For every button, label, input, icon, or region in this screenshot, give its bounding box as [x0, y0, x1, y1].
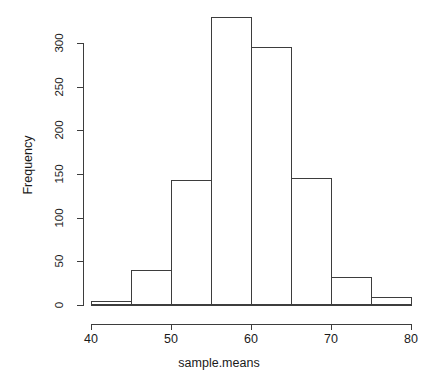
y-axis-tick-label: 50 — [53, 255, 65, 268]
y-axis-tick-label: 150 — [53, 164, 65, 183]
plot-area — [91, 14, 411, 305]
x-axis-tick-label: 50 — [151, 332, 191, 346]
histogram-bar — [211, 17, 252, 305]
bar-baseline — [91, 305, 412, 306]
y-axis-tick-label: 300 — [53, 33, 65, 52]
x-axis-tick-label: 70 — [311, 332, 351, 346]
y-axis-tick-label: 250 — [53, 77, 65, 96]
x-axis-tick-label: 40 — [71, 332, 111, 346]
y-axis-tick — [77, 174, 83, 175]
y-axis-tick — [77, 305, 83, 306]
x-axis-tick — [411, 324, 412, 330]
x-axis-tick-label: 80 — [391, 332, 431, 346]
histogram-bar — [371, 297, 412, 305]
y-axis-tick — [77, 218, 83, 219]
y-axis-tick — [77, 87, 83, 88]
y-axis-title-container: Frequency — [18, 0, 38, 330]
x-axis-tick — [171, 324, 172, 330]
y-axis-tick-label: 0 — [53, 302, 65, 308]
x-axis-tick — [251, 324, 252, 330]
y-axis-tick-label: 100 — [53, 208, 65, 227]
y-axis-tick — [77, 130, 83, 131]
y-axis-line — [83, 43, 84, 306]
histogram-plot: Frequency 050100150200250300 4050607080 … — [0, 0, 438, 391]
histogram-bar — [131, 270, 172, 305]
y-axis-tick — [77, 43, 83, 44]
histogram-bar — [291, 178, 332, 306]
x-axis-tick-label: 60 — [231, 332, 271, 346]
x-axis-tick — [91, 324, 92, 330]
y-axis-tick — [77, 261, 83, 262]
histogram-bar — [331, 277, 372, 305]
x-axis-tick — [331, 324, 332, 330]
histogram-bar — [251, 47, 292, 306]
y-axis-tick-label: 200 — [53, 121, 65, 140]
y-axis-title: Frequency — [21, 135, 35, 194]
x-axis-title: sample.means — [0, 356, 438, 370]
histogram-bar — [171, 180, 212, 305]
